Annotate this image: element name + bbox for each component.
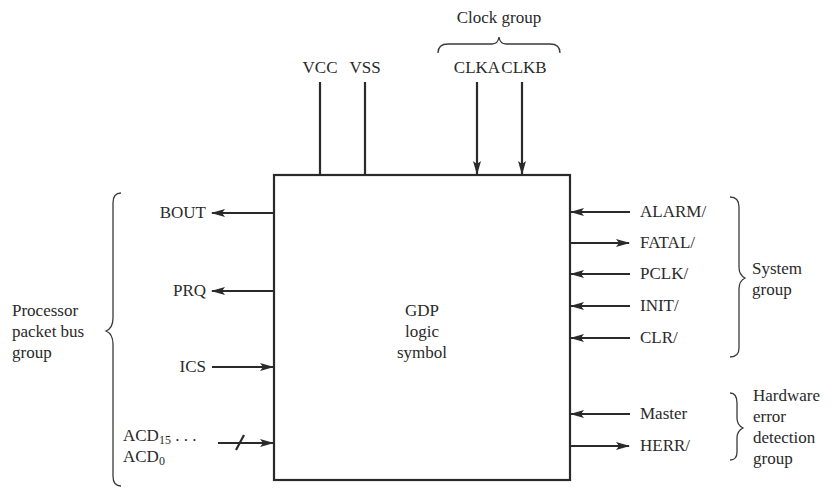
pin-label-ics: ICS (140, 357, 206, 377)
block-label: GDP logic symbol (372, 300, 472, 363)
clock-group-label: Clock group (427, 8, 571, 28)
system-group-label-line-2: group (752, 279, 802, 300)
pin-label-vcc: VCC (296, 58, 344, 78)
system-group-label-line-1: System (752, 258, 802, 279)
pin-label-clkb: CLKB (494, 58, 554, 78)
pin-label-init: INIT/ (640, 296, 679, 316)
pin-label-acd: ACD15 . . . ACD0 (123, 425, 196, 467)
pin-label-bout: BOUT (140, 203, 206, 223)
processor-group-label-line-2: packet bus (12, 321, 84, 342)
system-group-label: System group (752, 258, 802, 300)
pin-label-vss: VSS (342, 58, 388, 78)
processor-group-label: Processor packet bus group (12, 300, 84, 363)
processor-group-label-line-1: Processor (12, 300, 84, 321)
pin-label-alarm: ALARM/ (640, 202, 706, 222)
block-label-line-3: symbol (372, 342, 472, 363)
pin-label-fatal: FATAL/ (640, 233, 695, 253)
pin-label-clr: CLR/ (640, 328, 678, 348)
hardware-group-label: Hardware error detection group (753, 385, 820, 469)
hardware-group-label-line-1: Hardware (753, 385, 820, 406)
processor-group-label-line-3: group (12, 342, 84, 363)
system-group-brace (730, 197, 745, 357)
pin-label-pclk: PCLK/ (640, 264, 688, 284)
hardware-group-label-line-3: detection (753, 427, 820, 448)
pin-label-master: Master (640, 404, 687, 424)
block-label-line-2: logic (372, 321, 472, 342)
block-label-line-1: GDP (372, 300, 472, 321)
hardware-group-label-line-4: group (753, 448, 820, 469)
processor-group-brace (106, 193, 121, 486)
hardware-group-label-line-2: error (753, 406, 820, 427)
diagram-canvas (0, 0, 840, 495)
clock-group-brace (438, 37, 560, 53)
pin-label-herr: HERR/ (640, 436, 690, 456)
pin-label-prq: PRQ (140, 281, 206, 301)
hardware-group-brace (730, 393, 743, 460)
